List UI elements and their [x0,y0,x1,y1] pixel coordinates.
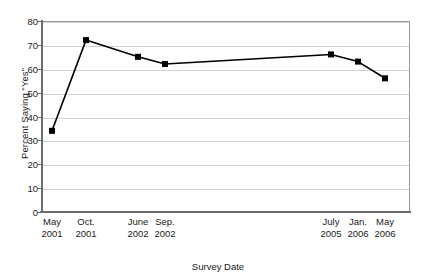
x-axis-line [40,211,411,213]
y-tick-label: 70 [4,39,38,50]
y-tick-mark [37,164,41,165]
y-tick-label: 60 [4,63,38,74]
y-tick-label: 30 [4,135,38,146]
y-tick-mark [37,117,41,118]
x-tick-label: May2006 [357,216,413,239]
y-tick-label: 50 [4,87,38,98]
x-tick-year: 2002 [137,228,193,240]
y-axis-line [41,20,43,213]
y-tick-mark [37,69,41,70]
y-tick-mark [37,140,41,141]
gridline [42,118,409,119]
y-tick-mark [37,212,41,213]
x-tick-month: Oct. [58,216,114,228]
line-chart: Percent Saying “Yes” 01020304050607080 M… [0,0,436,280]
gridline [42,70,409,71]
x-tick-label: Oct.2001 [58,216,114,239]
x-tick-year: 2001 [58,228,114,240]
gridline [42,94,409,95]
y-tick-label: 40 [4,111,38,122]
y-tick-label: 10 [4,183,38,194]
x-tick-label: Sep.2002 [137,216,193,239]
gridline [42,165,409,166]
gridline [42,141,409,142]
gridline [42,189,409,190]
x-tick-month: May [357,216,413,228]
gridline [42,22,409,23]
y-tick-label: 80 [4,16,38,27]
y-tick-mark [37,45,41,46]
x-tick-month: Sep. [137,216,193,228]
y-tick-mark [37,93,41,94]
plot-area [41,21,410,212]
y-tick-mark [37,188,41,189]
y-tick-label: 20 [4,159,38,170]
y-tick-mark [37,21,41,22]
gridline [42,46,409,47]
x-axis-title: Survey Date [0,261,436,272]
x-tick-year: 2006 [357,228,413,240]
